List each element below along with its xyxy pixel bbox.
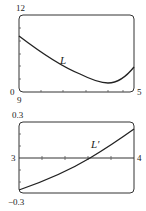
top-y-min-label: 0 <box>10 88 15 97</box>
bottom-x-min-label: 3 <box>11 154 16 163</box>
bottom-curve-L-prime <box>19 129 134 190</box>
top-x-max-label: 5 <box>137 88 142 97</box>
top-curve-L <box>19 36 134 83</box>
top-x-min-label: 9 <box>17 96 22 105</box>
top-curve-label: L <box>60 56 66 65</box>
top-y-max-label: 12 <box>16 4 25 13</box>
bottom-x-max-label: 4 <box>137 154 142 163</box>
bottom-curve-label: L′ <box>91 140 100 149</box>
bottom-y-min-label: −0.3 <box>8 198 24 207</box>
charts-canvas <box>0 0 146 211</box>
bottom-y-max-label: 0.3 <box>12 111 23 120</box>
top-plot-frame <box>19 15 134 92</box>
